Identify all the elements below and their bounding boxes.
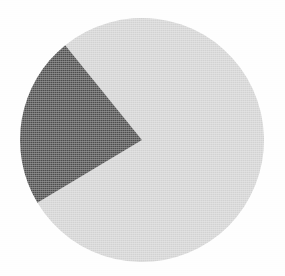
pie-chart-figure xyxy=(0,0,285,276)
pie-chart-canvas xyxy=(0,0,285,276)
pie-slices xyxy=(20,18,264,262)
